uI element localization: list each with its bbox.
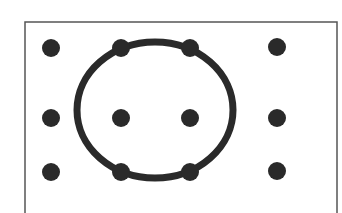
enclosing-circle xyxy=(77,42,233,178)
grid-dot xyxy=(42,39,60,57)
grid-dot xyxy=(42,163,60,181)
grid-dot xyxy=(268,109,286,127)
grid-dot xyxy=(112,39,130,57)
grid-dot xyxy=(181,109,199,127)
frame-border xyxy=(25,22,337,213)
grid-dot xyxy=(42,109,60,127)
grid-dot xyxy=(112,109,130,127)
grid-dot xyxy=(181,39,199,57)
grid-dot xyxy=(268,38,286,56)
dot-grid-diagram xyxy=(0,0,342,213)
grid-dot xyxy=(181,163,199,181)
grid-dot xyxy=(268,162,286,180)
grid-dot xyxy=(112,163,130,181)
